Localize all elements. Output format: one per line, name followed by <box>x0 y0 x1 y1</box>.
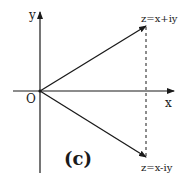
point-z-label: z=x+iy <box>141 14 178 24</box>
vector-z-conjugate <box>40 91 146 157</box>
y-axis-label: y <box>29 9 36 21</box>
point-z-conjugate-label: z=x-iy <box>141 163 172 173</box>
figure-caption: (c) <box>64 150 92 168</box>
vector-z <box>40 26 146 91</box>
origin-dot <box>38 89 41 92</box>
origin-label: O <box>26 93 36 105</box>
x-axis-label: x <box>165 97 172 109</box>
